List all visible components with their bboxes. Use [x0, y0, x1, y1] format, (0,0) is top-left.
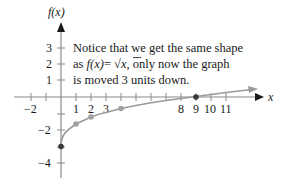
- x-axis-arrow-icon: [255, 93, 264, 101]
- annotation-line-1: Notice that we get the same shape: [73, 41, 244, 55]
- y-tick-label: 2: [46, 57, 52, 71]
- annotation-prefix: as: [73, 57, 87, 71]
- y-axis-label: f(x): [48, 5, 65, 19]
- x-tick-label: −2: [24, 102, 37, 116]
- x-tick-label: 8: [178, 102, 184, 116]
- y-tick-label: 1: [46, 73, 52, 87]
- annotation-suffix: , only now the graph: [127, 57, 231, 71]
- annotation-func: f(x): [87, 57, 104, 71]
- y-tick-label: −2: [38, 123, 51, 137]
- annotation-line-2: as f(x)= √x, only now the graph: [73, 57, 230, 71]
- x-tick-label: 11: [220, 102, 232, 116]
- annotation-eq: = √: [104, 57, 121, 71]
- data-point: [73, 121, 79, 127]
- data-point: [58, 144, 64, 150]
- y-tick-label: −4: [38, 156, 51, 170]
- x-tick-label: 2: [88, 102, 94, 116]
- data-point: [193, 94, 199, 100]
- y-tick-label: 3: [46, 41, 52, 55]
- x-tick-label: 10: [204, 102, 216, 116]
- x-tick-label: 1: [73, 102, 79, 116]
- data-point: [118, 106, 124, 112]
- data-point: [88, 114, 94, 120]
- x-axis-label: x: [267, 90, 274, 104]
- y-axis-label-text: f(x): [48, 5, 65, 19]
- curve-arrow-icon: [248, 86, 258, 93]
- sqrt-shift-chart: x f(x) −2 1 2 3 8 9 10 11 3 2 1 −: [0, 0, 282, 183]
- x-tick-label: 3: [103, 102, 109, 116]
- annotation-line-3: is moved 3 units down.: [73, 73, 189, 87]
- x-tick-label: 9: [193, 102, 199, 116]
- y-axis-arrow-icon: [57, 22, 65, 32]
